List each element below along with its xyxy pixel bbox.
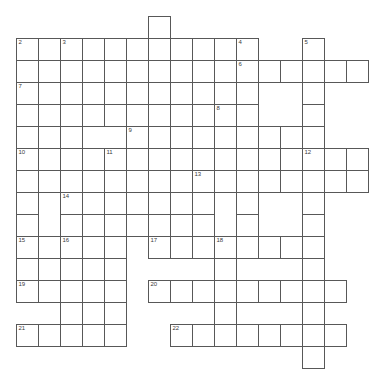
- crossword-cell[interactable]: [214, 38, 237, 61]
- crossword-cell[interactable]: [104, 82, 127, 105]
- crossword-cell[interactable]: [104, 302, 127, 325]
- crossword-cell-numbered-12[interactable]: 12: [302, 148, 325, 171]
- crossword-cell[interactable]: [82, 148, 105, 171]
- crossword-cell[interactable]: [104, 192, 127, 215]
- crossword-cell[interactable]: [38, 82, 61, 105]
- crossword-cell-numbered-6[interactable]: 6: [236, 60, 259, 83]
- crossword-cell-numbered-3[interactable]: 3: [60, 38, 83, 61]
- crossword-cell[interactable]: [280, 236, 303, 259]
- crossword-cell[interactable]: [214, 324, 237, 347]
- crossword-cell[interactable]: [104, 60, 127, 83]
- crossword-cell[interactable]: [38, 104, 61, 127]
- crossword-cell[interactable]: [346, 148, 369, 171]
- crossword-cell[interactable]: [60, 126, 83, 149]
- crossword-cell-numbered-11[interactable]: 11: [104, 148, 127, 171]
- crossword-cell[interactable]: [16, 170, 39, 193]
- crossword-cell[interactable]: [236, 192, 259, 215]
- crossword-cell[interactable]: [170, 280, 193, 303]
- crossword-cell[interactable]: [236, 104, 259, 127]
- crossword-cell[interactable]: [258, 148, 281, 171]
- crossword-cell[interactable]: [126, 214, 149, 237]
- crossword-cell[interactable]: [60, 302, 83, 325]
- crossword-cell[interactable]: [236, 324, 259, 347]
- crossword-cell-numbered-20[interactable]: 20: [148, 280, 171, 303]
- crossword-cell[interactable]: [324, 60, 347, 83]
- crossword-cell[interactable]: [236, 148, 259, 171]
- crossword-cell[interactable]: [126, 192, 149, 215]
- crossword-cell[interactable]: [126, 60, 149, 83]
- crossword-cell-numbered-17[interactable]: 17: [148, 236, 171, 259]
- crossword-cell-numbered-10[interactable]: 10: [16, 148, 39, 171]
- crossword-cell-numbered-21[interactable]: 21: [16, 324, 39, 347]
- crossword-cell[interactable]: [104, 258, 127, 281]
- crossword-cell[interactable]: [148, 38, 171, 61]
- crossword-cell[interactable]: [280, 324, 303, 347]
- crossword-cell[interactable]: [214, 302, 237, 325]
- crossword-cell[interactable]: [192, 82, 215, 105]
- crossword-cell[interactable]: [104, 324, 127, 347]
- crossword-cell[interactable]: [38, 60, 61, 83]
- crossword-cell[interactable]: [16, 126, 39, 149]
- crossword-cell[interactable]: [104, 214, 127, 237]
- crossword-cell-numbered-16[interactable]: 16: [60, 236, 83, 259]
- crossword-cell-numbered-13[interactable]: 13: [192, 170, 215, 193]
- crossword-cell[interactable]: [280, 280, 303, 303]
- crossword-cell[interactable]: [192, 104, 215, 127]
- crossword-cell[interactable]: [148, 104, 171, 127]
- crossword-cell[interactable]: [192, 214, 215, 237]
- crossword-cell[interactable]: [302, 280, 325, 303]
- crossword-cell-numbered-4[interactable]: 4: [236, 38, 259, 61]
- crossword-cell[interactable]: [126, 104, 149, 127]
- crossword-cell[interactable]: [192, 126, 215, 149]
- crossword-cell[interactable]: [214, 170, 237, 193]
- crossword-cell-numbered-22[interactable]: 22: [170, 324, 193, 347]
- crossword-cell[interactable]: [60, 104, 83, 127]
- crossword-cell[interactable]: [346, 60, 369, 83]
- crossword-cell[interactable]: [302, 302, 325, 325]
- crossword-cell[interactable]: [82, 324, 105, 347]
- crossword-cell[interactable]: [104, 170, 127, 193]
- crossword-cell[interactable]: [82, 38, 105, 61]
- crossword-cell[interactable]: [236, 82, 259, 105]
- crossword-cell[interactable]: [126, 82, 149, 105]
- crossword-cell-numbered-14[interactable]: 14: [60, 192, 83, 215]
- crossword-cell[interactable]: [148, 214, 171, 237]
- crossword-cell[interactable]: [280, 126, 303, 149]
- crossword-cell[interactable]: [324, 324, 347, 347]
- crossword-cell[interactable]: [38, 324, 61, 347]
- crossword-cell-numbered-8[interactable]: 8: [214, 104, 237, 127]
- crossword-cell[interactable]: [324, 280, 347, 303]
- crossword-cell[interactable]: [236, 214, 259, 237]
- crossword-cell[interactable]: [192, 236, 215, 259]
- crossword-cell[interactable]: [170, 148, 193, 171]
- crossword-cell[interactable]: [302, 214, 325, 237]
- crossword-cell[interactable]: [82, 60, 105, 83]
- crossword-cell[interactable]: [148, 82, 171, 105]
- crossword-cell[interactable]: [38, 236, 61, 259]
- crossword-cell[interactable]: [236, 236, 259, 259]
- crossword-grid[interactable]: 2345678910111213141516171819202122: [0, 0, 387, 385]
- crossword-cell-numbered-2[interactable]: 2: [16, 38, 39, 61]
- crossword-cell[interactable]: [38, 280, 61, 303]
- crossword-cell-numbered-18[interactable]: 18: [214, 236, 237, 259]
- crossword-cell[interactable]: [16, 258, 39, 281]
- crossword-cell[interactable]: [170, 126, 193, 149]
- crossword-cell[interactable]: [302, 170, 325, 193]
- crossword-cell[interactable]: [214, 126, 237, 149]
- crossword-cell[interactable]: [258, 280, 281, 303]
- crossword-cell[interactable]: [302, 324, 325, 347]
- crossword-cell[interactable]: [214, 148, 237, 171]
- crossword-cell-numbered-7[interactable]: 7: [16, 82, 39, 105]
- crossword-cell[interactable]: [258, 60, 281, 83]
- crossword-cell[interactable]: [82, 192, 105, 215]
- crossword-cell[interactable]: [302, 82, 325, 105]
- crossword-cell[interactable]: [16, 214, 39, 237]
- crossword-cell-numbered-9[interactable]: 9: [126, 126, 149, 149]
- crossword-cell[interactable]: [302, 258, 325, 281]
- crossword-cell[interactable]: [170, 214, 193, 237]
- crossword-cell[interactable]: [258, 236, 281, 259]
- crossword-cell[interactable]: [38, 258, 61, 281]
- crossword-cell[interactable]: [148, 192, 171, 215]
- crossword-cell[interactable]: [192, 60, 215, 83]
- crossword-cell[interactable]: [280, 170, 303, 193]
